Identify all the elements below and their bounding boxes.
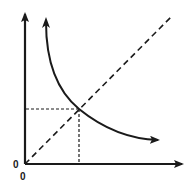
demand-curve	[46, 22, 158, 140]
origin-label-y: 0	[13, 159, 19, 170]
diagram-canvas: 0 0	[0, 0, 194, 186]
origin-label-x: 0	[20, 171, 26, 182]
